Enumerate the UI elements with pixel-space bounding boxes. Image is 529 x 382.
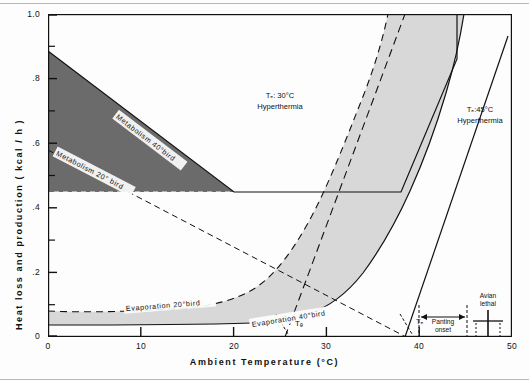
label-panting-onset: Panting onset (432, 318, 455, 333)
x-tick-label-40: 40 (404, 341, 434, 351)
x-tick-label-10: 10 (126, 341, 156, 351)
svg-text:Panting: Panting (432, 318, 455, 326)
annotation-hyperthermia-tb-30: Tₑ: 30°C Hyperthermia (257, 91, 303, 111)
x-tick-label-30: 30 (311, 341, 341, 351)
label-avian-lethal: Avian lethal (480, 292, 497, 307)
svg-text:Hyperthermia: Hyperthermia (257, 102, 303, 111)
y-axis-title: Heat loss and production ( kcal / h ) (14, 119, 24, 330)
x-tick-label-50: 50 (497, 341, 527, 351)
scan-rule-top (0, 3, 529, 4)
x-tick-label-0: 0 (33, 341, 63, 351)
y-tick-label-0.8: .8 (18, 73, 40, 83)
plot-area: Metabolism 40°bird Metabolism 20° bird E… (48, 14, 512, 337)
figure: Heat loss and production ( kcal / h ) Am… (0, 0, 529, 382)
svg-text:Tₑ: 30°C: Tₑ: 30°C (266, 91, 295, 100)
svg-text:Hyperthermia: Hyperthermia (457, 116, 503, 125)
tb-right-pointer (400, 314, 412, 334)
svg-text:lethal: lethal (480, 300, 496, 307)
scan-rule-bottom (0, 379, 529, 380)
y-tick-label-0.2: .2 (18, 267, 40, 277)
avian-lethal-marker (473, 310, 503, 336)
svg-text:Avian: Avian (480, 292, 497, 299)
y-tick-label-0.6: .6 (18, 138, 40, 148)
x-tick-label-20: 20 (219, 341, 249, 351)
svg-text:onset: onset (435, 326, 451, 333)
x-major-ticks (141, 327, 419, 337)
label-tb-left: Tₑ (295, 319, 303, 328)
y-tick-label-0: 0 (18, 331, 40, 341)
y-tick-label-0.4: .4 (18, 202, 40, 212)
label-tb-right: Tₑ (416, 317, 424, 326)
x-axis-title: Ambient Temperature (°C) (0, 357, 529, 367)
svg-text:Tₑ:45°C: Tₑ:45°C (467, 105, 494, 114)
y-tick-label-1.0: 1.0 (18, 9, 40, 19)
